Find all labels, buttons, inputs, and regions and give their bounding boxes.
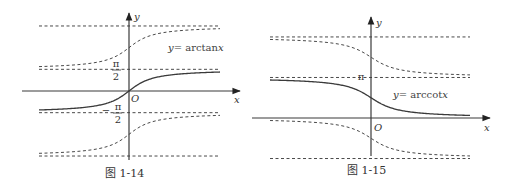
- y-axis-label: y: [375, 17, 382, 28]
- y-axis-label: y: [133, 11, 140, 22]
- tick-label-pi-over-2-den: 2: [113, 71, 119, 82]
- tick-label-neg-sign: −: [102, 105, 110, 116]
- x-axis-label: x: [234, 94, 240, 105]
- tick-label-neg-pi-over-2-den: 2: [115, 114, 121, 125]
- func-var-x: x: [442, 89, 448, 100]
- figure-canvas: y x O π 2 − π 2 y= arctanx 图 1-14 y x O …: [0, 0, 509, 189]
- origin-label: O: [374, 122, 382, 133]
- function-label-arctan: y= arctanx: [167, 42, 224, 53]
- tick-label-neg-pi-over-2-num: π: [115, 101, 122, 112]
- caption-fig-1-15: 图 1-15: [347, 164, 386, 177]
- series-arccot--dashed-curve: [270, 39, 470, 74]
- x-axis-label: x: [484, 122, 490, 133]
- tick-label-pi: π: [358, 71, 365, 82]
- func-eq: = arccot: [399, 89, 443, 100]
- tick-label-pi-over-2-num: π: [113, 58, 120, 69]
- function-label-arccot: y= arccotx: [392, 89, 448, 100]
- series-arccot--dashed-curve: [270, 121, 470, 156]
- func-var-x: x: [218, 42, 224, 53]
- func-eq: = arctan: [174, 42, 219, 53]
- caption-fig-1-14: 图 1-14: [105, 167, 144, 180]
- chart-arccot: y x O π y= arccotx 图 1-15: [252, 17, 490, 177]
- chart-arctan: y x O π 2 − π 2 y= arctanx 图 1-14: [22, 11, 240, 180]
- origin-label: O: [131, 93, 139, 104]
